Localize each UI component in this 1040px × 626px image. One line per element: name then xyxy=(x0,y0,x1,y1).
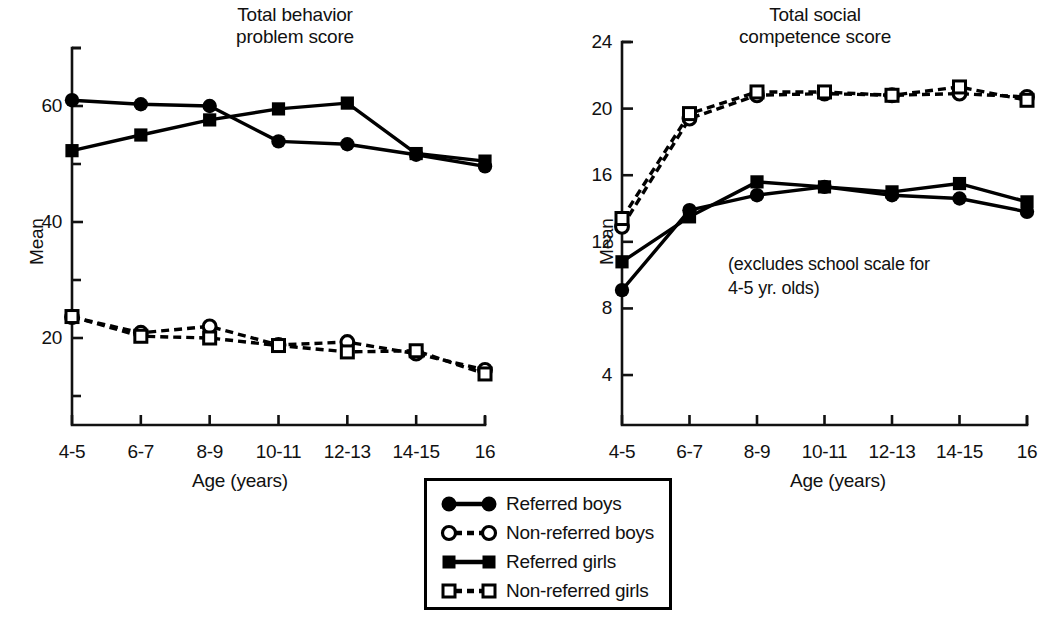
y-tick-label: 60 xyxy=(20,95,62,117)
data-point-marker xyxy=(410,147,423,160)
legend-item-referred-girls: Referred girls xyxy=(427,547,669,576)
y-tick-label: 8 xyxy=(570,297,612,319)
x-tick-label: 12-13 xyxy=(868,441,915,463)
x-tick-label: 10-11 xyxy=(802,441,848,463)
legend-marker-filled-circle xyxy=(441,493,497,515)
data-point-marker xyxy=(953,177,966,190)
data-point-marker xyxy=(135,330,147,342)
data-point-marker xyxy=(952,191,966,205)
legend-label-non-referred-girls: Non-referred girls xyxy=(506,580,648,602)
data-point-marker xyxy=(750,188,764,202)
data-point-marker xyxy=(954,81,966,93)
x-tick-label: 14-15 xyxy=(393,441,440,463)
data-point-marker xyxy=(684,108,696,120)
data-point-marker xyxy=(886,89,898,101)
legend-item-referred-boys: Referred boys xyxy=(427,489,669,518)
series-line xyxy=(622,187,1027,290)
x-tick-label: 16 xyxy=(1017,441,1038,463)
x-tick-label: 4-5 xyxy=(59,441,86,463)
legend-item-non-referred-boys: Non-referred boys xyxy=(427,518,669,547)
data-point-marker xyxy=(478,155,491,168)
data-point-marker xyxy=(134,97,148,111)
data-point-marker xyxy=(341,346,353,358)
data-point-marker xyxy=(202,99,216,113)
legend-label-referred-boys: Referred boys xyxy=(506,493,621,515)
y-tick-label: 20 xyxy=(570,98,612,120)
legend-marker-filled-square xyxy=(441,551,497,573)
x-tick-label: 6-7 xyxy=(676,441,703,463)
figure-root: Total behavior problem score Total socia… xyxy=(0,0,1040,626)
data-point-marker xyxy=(751,86,763,98)
data-point-marker xyxy=(66,311,78,323)
data-point-marker xyxy=(750,175,763,188)
x-tick-label: 8-9 xyxy=(744,441,771,463)
data-point-marker xyxy=(134,128,147,141)
x-tick-label: 16 xyxy=(475,441,496,463)
legend-marker-open-circle xyxy=(441,522,497,544)
y-tick-label: 40 xyxy=(20,211,62,233)
data-point-marker xyxy=(479,368,491,380)
data-point-marker xyxy=(885,185,898,198)
data-point-marker xyxy=(272,102,285,115)
legend-box: Referred boys Non-referred boys Referred… xyxy=(424,478,672,610)
y-tick-label: 4 xyxy=(570,364,612,386)
y-tick-label: 16 xyxy=(570,164,612,186)
data-point-marker xyxy=(273,340,285,352)
y-tick-label: 24 xyxy=(570,31,612,53)
y-tick-label: 20 xyxy=(20,327,62,349)
data-point-marker xyxy=(683,210,696,223)
x-tick-label: 6-7 xyxy=(128,441,155,463)
legend-marker-open-square xyxy=(441,580,497,602)
data-point-marker xyxy=(1020,195,1033,208)
data-point-marker xyxy=(615,255,628,268)
data-point-marker xyxy=(616,213,628,225)
data-point-marker xyxy=(271,134,285,148)
data-point-marker xyxy=(65,144,78,157)
y-tick-label: 12 xyxy=(570,231,612,253)
x-axis-label-social: Age (years) xyxy=(790,470,886,492)
data-point-marker xyxy=(410,345,422,357)
data-point-marker xyxy=(65,93,79,107)
x-tick-label: 4-5 xyxy=(609,441,636,463)
data-point-marker xyxy=(203,113,216,126)
legend-item-non-referred-girls: Non-referred girls xyxy=(427,576,669,605)
plot-area-behavior xyxy=(0,0,520,470)
legend-label-referred-girls: Referred girls xyxy=(506,551,616,573)
x-tick-label: 10-11 xyxy=(256,441,302,463)
x-tick-label: 8-9 xyxy=(196,441,223,463)
legend-label-non-referred-boys: Non-referred boys xyxy=(506,522,654,544)
x-tick-label: 14-15 xyxy=(936,441,983,463)
data-point-marker xyxy=(341,97,354,110)
data-point-marker xyxy=(818,180,831,193)
x-tick-label: 12-13 xyxy=(324,441,371,463)
data-point-marker xyxy=(819,86,831,98)
data-point-marker xyxy=(340,137,354,151)
data-point-marker xyxy=(615,283,629,297)
data-point-marker xyxy=(1021,94,1033,106)
x-axis-label-behavior: Age (years) xyxy=(192,470,288,492)
data-point-marker xyxy=(204,332,216,344)
